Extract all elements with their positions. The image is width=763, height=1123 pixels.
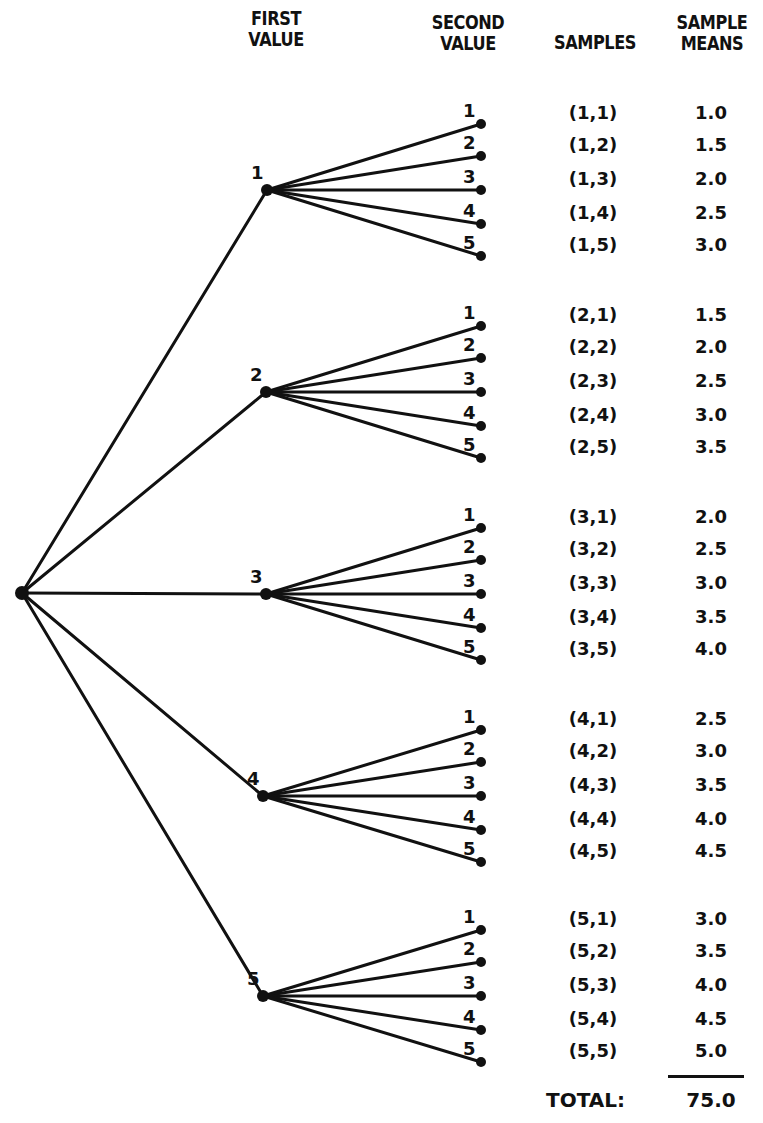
second-value-label: 4 bbox=[463, 808, 476, 826]
leaf-line bbox=[263, 962, 481, 996]
sample-mean: 1.0 bbox=[676, 102, 746, 123]
sample-mean: 2.5 bbox=[676, 708, 746, 729]
branch-line bbox=[22, 593, 263, 996]
tree-diagram bbox=[0, 0, 763, 1123]
sample-mean: 2.5 bbox=[676, 202, 746, 223]
sample-mean: 2.5 bbox=[676, 538, 746, 559]
leaf-node bbox=[476, 251, 486, 261]
second-value-label: 5 bbox=[463, 234, 476, 252]
sample-pair: (1,1) bbox=[548, 102, 638, 123]
branch-line bbox=[22, 392, 266, 593]
leaf-line bbox=[263, 796, 481, 862]
branch-line bbox=[22, 190, 267, 593]
sample-pair: (3,4) bbox=[548, 606, 638, 627]
total-rule bbox=[668, 1075, 744, 1078]
sample-pair: (4,1) bbox=[548, 708, 638, 729]
first-value-label: 1 bbox=[251, 164, 264, 182]
sample-mean: 2.0 bbox=[676, 506, 746, 527]
sample-mean: 3.5 bbox=[676, 940, 746, 961]
leaf-node bbox=[476, 523, 486, 533]
first-value-label: 5 bbox=[247, 970, 260, 988]
leaf-node bbox=[476, 387, 486, 397]
first-value-node bbox=[261, 184, 273, 196]
header-line: SAMPLE bbox=[670, 12, 755, 33]
sample-pair: (4,5) bbox=[548, 840, 638, 861]
leaf-node bbox=[476, 1057, 486, 1067]
sample-mean: 3.5 bbox=[676, 606, 746, 627]
sample-mean: 3.0 bbox=[676, 234, 746, 255]
leaf-line bbox=[266, 358, 481, 392]
sample-pair: (4,4) bbox=[548, 808, 638, 829]
sample-mean: 3.0 bbox=[676, 908, 746, 929]
sample-mean: 3.0 bbox=[676, 572, 746, 593]
header-line: FIRST bbox=[242, 8, 310, 29]
leaf-node bbox=[476, 555, 486, 565]
second-value-label: 1 bbox=[463, 304, 476, 322]
header-line: SAMPLES bbox=[548, 32, 642, 53]
second-value-label: 2 bbox=[463, 740, 476, 758]
sample-mean: 3.0 bbox=[676, 740, 746, 761]
first-value-node bbox=[260, 386, 272, 398]
sample-pair: (2,3) bbox=[548, 370, 638, 391]
first-value-label: 3 bbox=[250, 568, 263, 586]
header-sample-means: SAMPLE MEANS bbox=[670, 12, 755, 54]
leaf-node bbox=[476, 991, 486, 1001]
leaf-node bbox=[476, 655, 486, 665]
sample-pair: (3,1) bbox=[548, 506, 638, 527]
leaf-node bbox=[476, 151, 486, 161]
first-value-node bbox=[257, 790, 269, 802]
second-value-label: 4 bbox=[463, 606, 476, 624]
sample-mean: 1.5 bbox=[676, 134, 746, 155]
leaf-node bbox=[476, 589, 486, 599]
leaf-node bbox=[476, 185, 486, 195]
sample-pair: (3,5) bbox=[548, 638, 638, 659]
second-value-label: 4 bbox=[463, 202, 476, 220]
sample-pair: (1,5) bbox=[548, 234, 638, 255]
sample-pair: (3,2) bbox=[548, 538, 638, 559]
total-value: 75.0 bbox=[676, 1088, 746, 1112]
sample-pair: (2,4) bbox=[548, 404, 638, 425]
sample-pair: (4,3) bbox=[548, 774, 638, 795]
header-second-value: SECOND VALUE bbox=[427, 12, 509, 54]
leaf-line bbox=[263, 930, 481, 996]
second-value-label: 1 bbox=[463, 708, 476, 726]
sample-pair: (2,1) bbox=[548, 304, 638, 325]
leaf-line bbox=[266, 528, 481, 594]
leaf-line bbox=[263, 996, 481, 1030]
sample-mean: 4.0 bbox=[676, 638, 746, 659]
first-value-node bbox=[260, 588, 272, 600]
leaf-line bbox=[266, 392, 481, 458]
leaf-node bbox=[476, 825, 486, 835]
sample-pair: (2,2) bbox=[548, 336, 638, 357]
sample-pair: (4,2) bbox=[548, 740, 638, 761]
leaf-line bbox=[266, 594, 481, 628]
sample-pair: (1,2) bbox=[548, 134, 638, 155]
leaf-node bbox=[476, 623, 486, 633]
leaf-node bbox=[476, 453, 486, 463]
sample-pair: (1,4) bbox=[548, 202, 638, 223]
second-value-label: 4 bbox=[463, 1008, 476, 1026]
sample-mean: 3.5 bbox=[676, 774, 746, 795]
root-node bbox=[15, 586, 29, 600]
second-value-label: 1 bbox=[463, 506, 476, 524]
sample-mean: 4.5 bbox=[676, 1008, 746, 1029]
leaf-node bbox=[476, 925, 486, 935]
second-value-label: 1 bbox=[463, 102, 476, 120]
leaf-node bbox=[476, 421, 486, 431]
sample-pair: (3,3) bbox=[548, 572, 638, 593]
second-value-label: 3 bbox=[463, 168, 476, 186]
sample-pair: (5,4) bbox=[548, 1008, 638, 1029]
leaf-node bbox=[476, 219, 486, 229]
leaf-node bbox=[476, 353, 486, 363]
sample-mean: 4.0 bbox=[676, 808, 746, 829]
leaf-line bbox=[263, 762, 481, 796]
first-value-label: 2 bbox=[250, 366, 263, 384]
leaf-node bbox=[476, 857, 486, 867]
leaf-node bbox=[476, 119, 486, 129]
second-value-label: 3 bbox=[463, 370, 476, 388]
sample-mean: 2.5 bbox=[676, 370, 746, 391]
sample-pair: (5,3) bbox=[548, 974, 638, 995]
leaf-line bbox=[267, 124, 481, 190]
sample-mean: 3.0 bbox=[676, 404, 746, 425]
leaf-line bbox=[266, 594, 481, 660]
